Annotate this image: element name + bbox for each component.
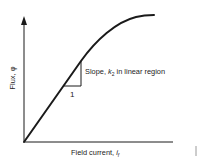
flux-vs-field-current-diagram: 1 Slope, k2 in linear region Flux, φ Fie… [0, 0, 199, 160]
slope-prefix: Slope, [85, 67, 108, 76]
y-axis-label: Flux, φ [8, 66, 17, 89]
magnetization-curve [24, 15, 154, 142]
x-label-subscript: f [118, 152, 120, 158]
x-label-main: Field current, [71, 148, 116, 157]
slope-suffix: in linear region [115, 67, 166, 76]
x-axis-label: Field current, if [71, 148, 120, 158]
slope-annotation: Slope, k2 in linear region [85, 67, 165, 77]
diagram-svg: 1 Slope, k2 in linear region Flux, φ Fie… [0, 0, 199, 160]
run-label: 1 [70, 90, 75, 99]
y-axis-arrow-icon [21, 16, 27, 25]
